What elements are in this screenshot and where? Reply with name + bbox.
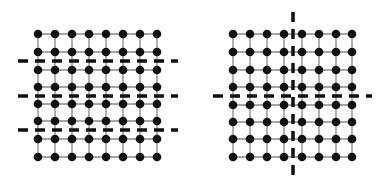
left-lattice (18, 30, 178, 162)
lattice-node (246, 30, 255, 39)
lattice-node (263, 83, 272, 92)
lattice-node (332, 118, 341, 127)
lattice-node (102, 135, 111, 144)
lattice-node (85, 117, 94, 126)
lattice-node (119, 117, 128, 126)
lattice-node (68, 30, 77, 39)
lattice-node (332, 101, 341, 110)
lattice-node (298, 48, 307, 57)
lattice-node (136, 135, 145, 144)
lattice-node (332, 135, 341, 144)
lattice-node (263, 101, 272, 110)
lattice-node (229, 135, 238, 144)
lattice-node (51, 153, 60, 162)
lattice-node (229, 118, 238, 127)
lattice-node (229, 66, 238, 75)
lattice-node (85, 100, 94, 109)
lattice-node (229, 48, 238, 57)
lattice-partition-diagram (0, 0, 387, 189)
lattice-node (280, 118, 289, 127)
lattice-node (280, 48, 289, 57)
lattice-node (298, 66, 307, 75)
lattice-node (348, 66, 357, 75)
lattice-node (348, 101, 357, 110)
lattice-node (280, 135, 289, 144)
lattice-node (153, 135, 162, 144)
lattice-node (119, 153, 128, 162)
lattice-node (246, 66, 255, 75)
lattice-node (153, 66, 162, 75)
lattice-node (298, 135, 307, 144)
lattice-node (34, 153, 43, 162)
lattice-node (229, 30, 238, 39)
lattice-node (332, 153, 341, 162)
lattice-node (246, 118, 255, 127)
lattice-node (280, 30, 289, 39)
lattice-node (348, 135, 357, 144)
lattice-node (229, 101, 238, 110)
lattice-node (68, 83, 77, 92)
lattice-node (153, 153, 162, 162)
lattice-node (51, 48, 60, 57)
lattice-node (263, 30, 272, 39)
lattice-node (34, 30, 43, 39)
lattice-node (348, 118, 357, 127)
lattice-node (153, 48, 162, 57)
lattice-node (315, 135, 324, 144)
lattice-node (315, 83, 324, 92)
lattice-node (119, 83, 128, 92)
lattice-node (136, 100, 145, 109)
lattice-node (34, 100, 43, 109)
lattice-node (34, 48, 43, 57)
lattice-node (332, 48, 341, 57)
lattice-node (315, 118, 324, 127)
lattice-node (102, 66, 111, 75)
lattice-node (68, 135, 77, 144)
lattice-node (136, 48, 145, 57)
lattice-node (348, 48, 357, 57)
lattice-node (246, 83, 255, 92)
lattice-node (153, 100, 162, 109)
lattice-node (119, 48, 128, 57)
lattice-node (153, 117, 162, 126)
lattice-node (298, 30, 307, 39)
lattice-node (51, 135, 60, 144)
lattice-node (136, 117, 145, 126)
lattice-node (85, 153, 94, 162)
lattice-node (246, 153, 255, 162)
lattice-node (246, 101, 255, 110)
lattice-node (85, 48, 94, 57)
lattice-node (315, 66, 324, 75)
lattice-node (315, 30, 324, 39)
lattice-node (263, 135, 272, 144)
lattice-node (315, 101, 324, 110)
lattice-node (136, 30, 145, 39)
lattice-node (280, 66, 289, 75)
lattice-node (298, 118, 307, 127)
lattice-node (34, 135, 43, 144)
lattice-node (34, 117, 43, 126)
lattice-node (153, 83, 162, 92)
lattice-node (102, 153, 111, 162)
lattice-node (85, 135, 94, 144)
lattice-node (102, 100, 111, 109)
lattice-node (229, 83, 238, 92)
lattice-node (51, 100, 60, 109)
lattice-node (34, 66, 43, 75)
lattice-node (332, 83, 341, 92)
lattice-node (332, 66, 341, 75)
lattice-node (348, 153, 357, 162)
lattice-node (246, 135, 255, 144)
lattice-node (348, 30, 357, 39)
lattice-node (51, 30, 60, 39)
lattice-node (102, 83, 111, 92)
lattice-node (280, 83, 289, 92)
lattice-node (280, 153, 289, 162)
lattice-node (153, 30, 162, 39)
lattice-node (85, 66, 94, 75)
lattice-node (85, 83, 94, 92)
lattice-node (298, 153, 307, 162)
lattice-node (68, 66, 77, 75)
lattice-node (280, 101, 289, 110)
lattice-node (119, 135, 128, 144)
